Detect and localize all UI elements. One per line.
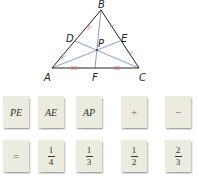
plus-icon: + <box>131 106 137 118</box>
tile-label: AE <box>45 107 57 118</box>
denominator: 4 <box>49 158 54 167</box>
median-ae <box>52 41 120 68</box>
label-a: A <box>43 72 51 83</box>
tile-minus[interactable]: − <box>165 96 191 128</box>
fraction: 13 <box>86 146 93 167</box>
fraction: 14 <box>48 146 55 167</box>
denominator: 2 <box>132 158 137 167</box>
tile-one-half[interactable]: 12 <box>121 140 147 172</box>
triangle-diagram: A B C D E F P <box>0 0 199 90</box>
numerator: 2 <box>176 146 181 155</box>
label-b: B <box>98 0 105 10</box>
tile-one-third[interactable]: 13 <box>76 140 102 172</box>
denominator: 3 <box>176 158 181 167</box>
equals-icon: = <box>13 150 19 162</box>
tile-one-fourth[interactable]: 14 <box>38 140 64 172</box>
tile-label: PE <box>10 107 22 118</box>
label-p: P <box>98 38 105 49</box>
tile-equals[interactable]: = <box>3 140 29 172</box>
numerator: 1 <box>49 146 54 155</box>
label-c: C <box>139 72 146 83</box>
minus-icon: − <box>175 106 181 118</box>
tile-ap[interactable]: AP <box>76 96 102 128</box>
label-e: E <box>121 33 128 44</box>
fraction: 23 <box>175 146 182 167</box>
centroid-point <box>96 49 98 51</box>
numerator: 1 <box>87 146 92 155</box>
label-d: D <box>66 33 74 44</box>
fraction: 12 <box>131 146 138 167</box>
tile-pe[interactable]: PE <box>3 96 29 128</box>
median-cd <box>75 41 139 68</box>
tile-plus[interactable]: + <box>121 96 147 128</box>
numerator: 1 <box>132 146 137 155</box>
denominator: 3 <box>87 158 92 167</box>
tile-ae[interactable]: AE <box>38 96 64 128</box>
tile-two-thirds[interactable]: 23 <box>165 140 191 172</box>
label-f: F <box>92 72 98 83</box>
tile-label: AP <box>83 107 95 118</box>
